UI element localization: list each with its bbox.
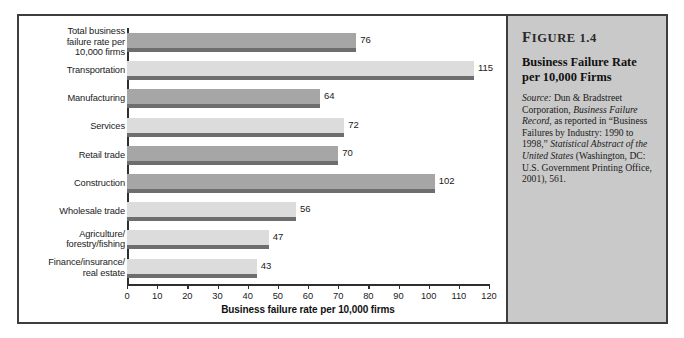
category-label-line: failure rate per xyxy=(21,37,125,47)
bar-body xyxy=(127,146,338,161)
bar-body xyxy=(127,230,269,245)
bar-value-label: 47 xyxy=(273,231,284,242)
bar-shadow xyxy=(127,217,296,221)
bar-value-label: 64 xyxy=(324,90,335,101)
figure-title-line-1: Business Failure Rate xyxy=(522,55,653,70)
figure-container: 76115647270102564743 Total businessfailu… xyxy=(17,14,668,324)
x-axis-tick xyxy=(248,284,249,289)
x-axis-tick-label: 80 xyxy=(363,291,373,301)
figure-source-note: Source: Dun & Bradstreet Corporation, Bu… xyxy=(522,92,653,185)
bar-shadow xyxy=(127,133,344,137)
bar-row[interactable]: 70 xyxy=(127,146,338,166)
bar-value-label: 43 xyxy=(261,260,272,271)
category-label-line: Manufacturing xyxy=(21,93,125,103)
figure-title: Business Failure Rate per 10,000 Firms xyxy=(522,55,653,84)
bar-shadow xyxy=(127,161,338,165)
category-label-line: Services xyxy=(21,121,125,131)
x-axis-tick xyxy=(157,284,158,289)
x-axis-tick xyxy=(187,284,188,289)
category-label: Wholesale trade xyxy=(21,206,125,216)
bar-row[interactable]: 72 xyxy=(127,118,344,138)
bar-row[interactable]: 102 xyxy=(127,174,435,194)
category-label: Manufacturing xyxy=(21,93,125,103)
caption-panel: FIGURE 1.4 Business Failure Rate per 10,… xyxy=(506,16,666,322)
category-label-line: Agriculture/ xyxy=(21,229,125,239)
figure-title-line-2: per 10,000 Firms xyxy=(522,70,653,85)
figure-number-heading: FIGURE 1.4 xyxy=(522,29,653,46)
bar-value-label: 76 xyxy=(360,34,371,45)
bar-shadow xyxy=(127,76,474,80)
category-label-line: Construction xyxy=(21,178,125,188)
x-axis-tick-label: 60 xyxy=(303,291,313,301)
category-label: Services xyxy=(21,121,125,131)
x-axis-tick-label: 10 xyxy=(152,291,162,301)
bar-shadow xyxy=(127,245,269,249)
bar-row[interactable]: 43 xyxy=(127,259,257,279)
bar-value-label: 72 xyxy=(348,119,359,130)
x-axis-tick xyxy=(489,284,490,289)
x-axis-tick xyxy=(399,284,400,289)
x-axis-tick-label: 30 xyxy=(212,291,222,301)
x-axis-tick-label: 120 xyxy=(481,291,497,301)
category-label-line: forestry/fishing xyxy=(21,239,125,249)
bar-row[interactable]: 76 xyxy=(127,33,356,53)
figure-word-rest: IGURE xyxy=(532,31,576,45)
chart-panel: 76115647270102564743 Total businessfailu… xyxy=(19,16,506,322)
category-label: Finance/insurance/real estate xyxy=(21,257,125,278)
bar-row[interactable]: 56 xyxy=(127,202,296,222)
x-axis-tick-label: 110 xyxy=(451,291,466,301)
x-axis-tick xyxy=(278,284,279,289)
bar-body xyxy=(127,174,435,189)
bars-layer: 76115647270102564743 xyxy=(127,28,489,284)
x-axis-tick-label: 100 xyxy=(421,291,437,301)
bar-row[interactable]: 115 xyxy=(127,61,474,81)
bar-shadow xyxy=(127,274,257,278)
x-axis-tick xyxy=(338,284,339,289)
bar-body xyxy=(127,259,257,274)
bar-value-label: 70 xyxy=(342,147,353,158)
bar-shadow xyxy=(127,189,435,193)
category-label-line: real estate xyxy=(21,268,125,278)
category-label: Retail trade xyxy=(21,150,125,160)
figure-number-value: 1.4 xyxy=(579,31,596,45)
plot-area: 76115647270102564743 Total businessfailu… xyxy=(19,16,506,322)
category-label-line: Total business xyxy=(21,26,125,36)
bar-body xyxy=(127,61,474,76)
x-axis-tick-label: 50 xyxy=(273,291,283,301)
bar-body xyxy=(127,202,296,217)
bar-row[interactable]: 47 xyxy=(127,230,269,250)
bar-shadow xyxy=(127,104,320,108)
bar-value-label: 56 xyxy=(300,203,311,214)
x-axis-tick-label: 90 xyxy=(393,291,403,301)
x-axis-tick xyxy=(368,284,369,289)
category-label-line: Retail trade xyxy=(21,150,125,160)
x-axis-tick xyxy=(218,284,219,289)
bar-value-label: 102 xyxy=(439,175,455,186)
bar-value-label: 115 xyxy=(478,62,493,73)
x-axis-title: Business failure rate per 10,000 firms xyxy=(127,304,489,315)
bar-shadow xyxy=(127,48,356,52)
category-label: Agriculture/forestry/fishing xyxy=(21,229,125,250)
bar-body xyxy=(127,89,320,104)
bar-body xyxy=(127,33,356,48)
bar-body xyxy=(127,118,344,133)
x-axis-tick xyxy=(308,284,309,289)
bar-row[interactable]: 64 xyxy=(127,89,320,109)
x-axis-tick-label: 20 xyxy=(182,291,192,301)
x-axis-tick-label: 0 xyxy=(124,291,129,301)
category-label-line: Finance/insurance/ xyxy=(21,257,125,267)
category-label: Total businessfailure rate per10,000 fir… xyxy=(21,26,125,57)
source-label: Source: xyxy=(522,92,551,103)
category-label-line: Transportation xyxy=(21,65,125,75)
figure-word-initial: F xyxy=(522,29,532,45)
category-label-line: Wholesale trade xyxy=(21,206,125,216)
x-axis-tick xyxy=(429,284,430,289)
x-axis-tick xyxy=(127,284,128,289)
x-axis-tick-label: 40 xyxy=(242,291,252,301)
category-label: Construction xyxy=(21,178,125,188)
x-axis-tick-label: 70 xyxy=(333,291,343,301)
x-axis-tick xyxy=(459,284,460,289)
category-label-line: 10,000 firms xyxy=(21,47,125,57)
category-label: Transportation xyxy=(21,65,125,75)
